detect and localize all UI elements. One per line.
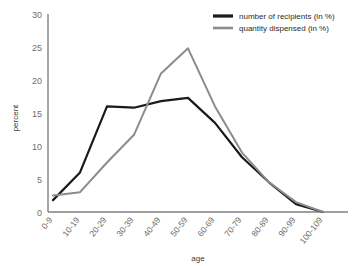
x-tick-label: 90-99 [276,215,297,239]
x-tick-label: 100-109 [297,215,324,246]
y-tick-label: 5 [37,175,42,185]
y-axis-title: percent [11,104,20,131]
x-tick-label: 20-29 [87,215,108,239]
y-tick-label: 30 [32,10,42,20]
line-chart: 051015202530 0-910-1920-2930-3940-4950-5… [0,0,357,266]
x-tick-label: 10-19 [60,215,81,239]
series-line-2 [53,48,323,212]
x-axis-title: age [191,254,205,263]
chart-container: 051015202530 0-910-1920-2930-3940-4950-5… [0,0,357,266]
x-tick-label: 50-59 [168,215,189,239]
y-tick-label: 25 [32,43,42,53]
y-tick-label: 15 [32,109,42,119]
series-line-1 [53,98,323,212]
y-tick-label: 0 [37,208,42,218]
legend-label-2: quantity dispensed (in %) [239,24,329,33]
y-tick-label: 20 [32,76,42,86]
x-tick-label: 40-49 [141,215,162,239]
x-tick-label: 30-39 [114,215,135,239]
x-tick-label: 70-79 [222,215,243,239]
x-tick-label: 80-89 [249,215,270,239]
x-tick-label: 60-69 [195,215,216,239]
legend-label-1: number of recipients (in %) [239,12,335,21]
series-lines [53,48,323,212]
chart-legend: number of recipients (in %)quantity disp… [213,12,335,33]
x-tick-labels: 0-910-1920-2930-3940-4950-5960-6970-7980… [39,215,325,246]
y-tick-labels: 051015202530 [32,10,42,218]
y-tick-label: 10 [32,142,42,152]
